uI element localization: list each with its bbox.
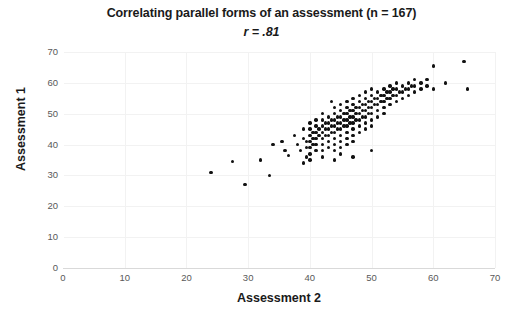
data-point bbox=[345, 124, 348, 127]
data-point bbox=[407, 94, 410, 97]
gridline-vertical bbox=[125, 52, 126, 268]
data-point bbox=[382, 106, 385, 109]
data-point bbox=[321, 143, 324, 146]
x-tick-label: 20 bbox=[166, 272, 206, 283]
scatter-chart-figure: Correlating parallel forms of an assessm… bbox=[0, 0, 523, 326]
chart-subtitle: r = .81 bbox=[0, 23, 523, 42]
data-point bbox=[299, 149, 302, 152]
data-point bbox=[314, 149, 317, 152]
data-point bbox=[314, 143, 317, 146]
x-tick-label: 60 bbox=[413, 272, 453, 283]
data-point bbox=[333, 137, 336, 140]
gridline-vertical bbox=[495, 52, 496, 268]
data-point bbox=[302, 161, 305, 164]
data-point bbox=[339, 140, 342, 143]
data-point bbox=[462, 60, 465, 63]
data-point bbox=[382, 112, 385, 115]
chart-title: Correlating parallel forms of an assessm… bbox=[0, 4, 523, 23]
data-point bbox=[376, 103, 379, 106]
data-point bbox=[425, 84, 428, 87]
gridline-vertical bbox=[186, 52, 187, 268]
data-point bbox=[339, 134, 342, 137]
gridline-horizontal bbox=[63, 52, 495, 53]
data-point bbox=[351, 97, 354, 100]
data-point bbox=[339, 146, 342, 149]
data-point bbox=[283, 149, 286, 152]
data-point bbox=[231, 160, 234, 163]
data-point bbox=[388, 103, 391, 106]
data-point bbox=[370, 124, 373, 127]
data-point bbox=[314, 137, 317, 140]
data-point bbox=[321, 149, 324, 152]
data-point bbox=[345, 100, 348, 103]
data-point bbox=[321, 155, 324, 158]
data-point bbox=[358, 124, 361, 127]
data-point bbox=[401, 97, 404, 100]
data-point bbox=[308, 152, 311, 155]
y-tick-label: 40 bbox=[32, 140, 58, 150]
x-tick-label: 0 bbox=[43, 272, 83, 283]
data-point bbox=[413, 84, 416, 87]
data-point bbox=[308, 121, 311, 124]
data-point bbox=[376, 109, 379, 112]
data-point bbox=[333, 106, 336, 109]
data-point bbox=[413, 78, 416, 81]
y-tick-label: 60 bbox=[32, 78, 58, 88]
data-point bbox=[376, 115, 379, 118]
data-point bbox=[364, 121, 367, 124]
gridline-horizontal bbox=[63, 206, 495, 207]
data-point bbox=[388, 97, 391, 100]
data-point bbox=[358, 94, 361, 97]
data-point bbox=[339, 103, 342, 106]
x-axis-tick-labels: 010203040506070 bbox=[63, 272, 495, 286]
data-point bbox=[351, 140, 354, 143]
x-axis-line bbox=[63, 268, 495, 269]
data-point bbox=[339, 152, 342, 155]
data-point bbox=[317, 127, 320, 130]
data-point bbox=[259, 158, 262, 161]
data-point bbox=[321, 131, 324, 134]
data-point bbox=[419, 81, 422, 84]
x-tick-label: 10 bbox=[105, 272, 145, 283]
data-point bbox=[327, 134, 330, 137]
data-point bbox=[370, 149, 373, 152]
data-point bbox=[327, 146, 330, 149]
y-tick-label: 50 bbox=[32, 109, 58, 119]
plot-area bbox=[63, 52, 495, 268]
gridline-vertical bbox=[248, 52, 249, 268]
data-point bbox=[432, 64, 435, 67]
y-axis-title: Assessment 1 bbox=[14, 59, 28, 199]
gridline-horizontal bbox=[63, 175, 495, 176]
data-point bbox=[351, 155, 354, 158]
data-point bbox=[243, 183, 246, 186]
data-point bbox=[345, 137, 348, 140]
data-point bbox=[308, 158, 311, 161]
data-point bbox=[466, 87, 469, 90]
y-tick-label: 20 bbox=[32, 201, 58, 211]
data-point bbox=[419, 87, 422, 90]
data-point bbox=[317, 134, 320, 137]
data-point bbox=[308, 146, 311, 149]
data-point bbox=[345, 143, 348, 146]
y-tick-label: 70 bbox=[32, 47, 58, 57]
data-point bbox=[333, 149, 336, 152]
data-point bbox=[333, 143, 336, 146]
data-point bbox=[370, 87, 373, 90]
data-point bbox=[268, 174, 271, 177]
data-point bbox=[351, 134, 354, 137]
gridline-vertical bbox=[433, 52, 434, 268]
data-point bbox=[327, 140, 330, 143]
data-point bbox=[209, 171, 212, 174]
data-point bbox=[395, 81, 398, 84]
data-point bbox=[351, 127, 354, 130]
data-point bbox=[382, 100, 385, 103]
data-point bbox=[425, 78, 428, 81]
x-tick-label: 30 bbox=[228, 272, 268, 283]
x-tick-label: 50 bbox=[352, 272, 392, 283]
data-point bbox=[314, 118, 317, 121]
data-point bbox=[432, 87, 435, 90]
data-point bbox=[271, 143, 274, 146]
data-point bbox=[333, 131, 336, 134]
data-point bbox=[364, 90, 367, 93]
data-point bbox=[358, 118, 361, 121]
